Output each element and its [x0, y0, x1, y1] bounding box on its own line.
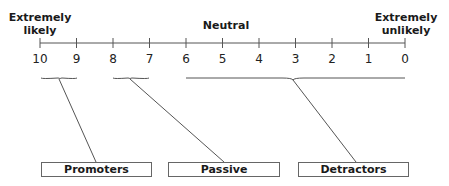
category-box-passive: Passive: [168, 162, 280, 177]
tick-label-2: 2: [322, 52, 342, 66]
bracket-promoters: [41, 78, 77, 79]
leader-detractors: [293, 80, 356, 162]
category-box-detractors: Detractors: [298, 162, 409, 177]
tick-label-4: 4: [249, 52, 269, 66]
tick-label-7: 7: [140, 52, 160, 66]
bracket-passive: [113, 78, 149, 79]
tick-label-8: 8: [103, 52, 123, 66]
leader-promoters: [59, 79, 96, 162]
tick-label-10: 10: [30, 52, 50, 66]
category-box-promoters: Promoters: [41, 162, 152, 177]
tick-label-3: 3: [286, 52, 306, 66]
bracket-detractors: [186, 78, 405, 80]
tick-label-6: 6: [176, 52, 196, 66]
tick-label-9: 9: [67, 52, 87, 66]
leader-passive: [130, 79, 224, 162]
tick-label-0: 0: [395, 52, 415, 66]
tick-label-5: 5: [213, 52, 233, 66]
tick-label-1: 1: [359, 52, 379, 66]
scale-graphics: [0, 0, 449, 186]
